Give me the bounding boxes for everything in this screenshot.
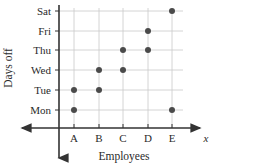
x-tick-label-d: D bbox=[144, 132, 152, 144]
data-point bbox=[169, 8, 175, 14]
y-tick-label-thu: Thu bbox=[33, 44, 51, 56]
grid-horizontal bbox=[59, 11, 183, 110]
scatter-plot-figure: Sat Fri Thu Wed Tue Mon A B C D E bbox=[0, 0, 271, 168]
y-tick-label-mon: Mon bbox=[30, 104, 51, 116]
plot-canvas: Sat Fri Thu Wed Tue Mon A B C D E bbox=[0, 0, 271, 168]
data-point bbox=[96, 67, 102, 73]
y-tick-label-fri: Fri bbox=[38, 25, 51, 37]
x-tick-label-b: B bbox=[95, 132, 102, 144]
data-point bbox=[120, 47, 126, 53]
data-point bbox=[145, 28, 151, 34]
y-tick-label-wed: Wed bbox=[31, 64, 51, 76]
data-point bbox=[71, 107, 77, 113]
x-tick-label-e: E bbox=[169, 132, 176, 144]
x-axis-tick-labels: A B C D E bbox=[70, 132, 176, 144]
data-point bbox=[169, 107, 175, 113]
y-axis-tick-labels: Sat Fri Thu Wed Tue Mon bbox=[30, 5, 51, 116]
y-tick-label-sat: Sat bbox=[37, 5, 51, 17]
x-axis-title: Employees bbox=[98, 150, 150, 163]
data-point bbox=[71, 87, 77, 93]
data-point bbox=[120, 67, 126, 73]
x-tick-label-c: C bbox=[119, 132, 126, 144]
data-point bbox=[96, 87, 102, 93]
x-axis-variable-label: x bbox=[203, 132, 209, 144]
y-tick-label-tue: Tue bbox=[34, 84, 51, 96]
x-tick-label-a: A bbox=[70, 132, 78, 144]
y-axis-title: Days off bbox=[2, 48, 15, 88]
data-point bbox=[145, 47, 151, 53]
